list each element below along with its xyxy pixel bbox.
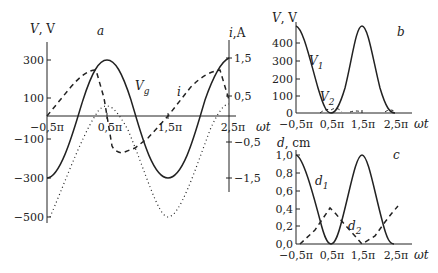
svg-text:−1,5: −1,5 <box>234 172 261 185</box>
d2-label: d2 <box>348 219 362 236</box>
svg-text:0,6: 0,6 <box>276 185 294 198</box>
svg-text:200: 200 <box>272 73 293 86</box>
svg-text:ωt: ωt <box>414 248 429 262</box>
svg-text:100: 100 <box>23 92 44 105</box>
svg-text:ωt: ωt <box>414 117 429 131</box>
svg-text:2,5π: 2,5π <box>384 118 409 131</box>
svg-text:0,5π: 0,5π <box>320 249 345 262</box>
i-label: i <box>177 85 181 99</box>
panel-a <box>47 40 236 223</box>
panel-a-ylabel-right: i,A <box>229 26 246 40</box>
figure: V, V a i,A Vg i 300 100 −100 −300 −500 1… <box>0 0 438 273</box>
svg-text:−0,5π: −0,5π <box>279 249 313 262</box>
panel-b-ylabel: V, V <box>272 11 297 25</box>
panel-a-ylabel-left: V, V <box>30 22 55 36</box>
svg-text:2,5π: 2,5π <box>221 121 246 134</box>
svg-text:−300: −300 <box>14 172 44 185</box>
svg-text:1,0: 1,0 <box>276 149 294 162</box>
vg-label: Vg <box>135 79 150 96</box>
svg-text:400: 400 <box>272 37 293 50</box>
svg-text:−0,5: −0,5 <box>234 136 261 149</box>
panel-c-tag: c <box>393 148 400 162</box>
v2-label: V2 <box>320 90 335 107</box>
series-v1 <box>296 26 395 113</box>
svg-text:−500: −500 <box>14 211 44 224</box>
panel-a-tag: a <box>97 24 104 38</box>
svg-text:300: 300 <box>272 55 293 68</box>
v1-label: V1 <box>309 54 323 71</box>
panel-c-ylabel: d, cm <box>277 136 311 150</box>
svg-text:0,4: 0,4 <box>276 203 294 216</box>
panel-b-tag: b <box>397 25 405 39</box>
svg-text:300: 300 <box>23 54 44 67</box>
svg-text:0,5π: 0,5π <box>320 118 345 131</box>
svg-text:1,5π: 1,5π <box>351 118 376 131</box>
svg-text:ωt: ωt <box>256 120 271 134</box>
svg-text:2,5π: 2,5π <box>384 249 409 262</box>
svg-text:0,8: 0,8 <box>276 167 294 180</box>
svg-text:0,5π: 0,5π <box>98 121 123 134</box>
svg-text:1,5: 1,5 <box>234 52 252 65</box>
svg-text:1,5π: 1,5π <box>351 249 376 262</box>
svg-text:−0,5π: −0,5π <box>279 118 313 131</box>
svg-text:−0,5π: −0,5π <box>30 121 64 134</box>
svg-text:0,2: 0,2 <box>276 220 294 233</box>
panel-a-labels: V, V a i,A Vg i 300 100 −100 −300 −500 1… <box>14 22 271 224</box>
series-vg <box>47 58 229 178</box>
svg-text:−100: −100 <box>14 133 44 146</box>
d1-label: d1 <box>315 174 328 191</box>
svg-text:1,5π: 1,5π <box>158 121 183 134</box>
svg-text:100: 100 <box>272 90 293 103</box>
svg-text:0,5: 0,5 <box>234 90 252 103</box>
